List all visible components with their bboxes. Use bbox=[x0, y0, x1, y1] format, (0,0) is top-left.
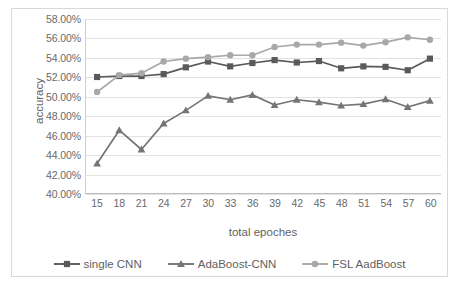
data-point-marker bbox=[249, 52, 255, 58]
chart-container: accuracy 40.00%42.00%44.00%46.00%48.00%5… bbox=[0, 0, 461, 294]
series-single-cnn bbox=[94, 56, 433, 81]
data-point-marker bbox=[382, 39, 388, 45]
x-axis-tick-label: 15 bbox=[91, 197, 103, 209]
legend-item-adaboost-cnn[interactable]: AdaBoost-CNN bbox=[168, 258, 277, 270]
data-point-marker bbox=[115, 126, 123, 133]
data-point-marker bbox=[272, 57, 278, 63]
y-axis-tick-label: 44.00% bbox=[46, 149, 81, 161]
x-axis-tick-label: 21 bbox=[136, 197, 148, 209]
data-point-marker bbox=[405, 34, 411, 40]
data-point-marker bbox=[161, 71, 167, 77]
y-axis-title: accuracy bbox=[33, 56, 45, 146]
y-axis-tick-label: 48.00% bbox=[46, 110, 81, 122]
y-axis-tick-label: 54.00% bbox=[46, 52, 81, 64]
legend-label: AdaBoost-CNN bbox=[198, 258, 277, 270]
data-point-marker bbox=[183, 64, 189, 70]
data-point-marker bbox=[360, 42, 366, 48]
x-axis-tick-label: 51 bbox=[358, 197, 370, 209]
data-point-marker bbox=[160, 58, 166, 64]
x-axis-tick-label: 18 bbox=[114, 197, 126, 209]
y-axis-tick-label: 50.00% bbox=[46, 91, 81, 103]
data-point-marker bbox=[382, 64, 388, 70]
y-axis-tick-label: 46.00% bbox=[46, 130, 81, 142]
y-axis-tick-label: 52.00% bbox=[46, 71, 81, 83]
x-axis-title: total epoches bbox=[85, 226, 441, 238]
x-axis-tick-label: 33 bbox=[225, 197, 237, 209]
series-line bbox=[97, 95, 430, 164]
legend-label: single CNN bbox=[84, 258, 142, 270]
series-plot bbox=[86, 19, 441, 193]
data-point-marker bbox=[116, 72, 122, 78]
y-axis-tick-label: 56.00% bbox=[46, 32, 81, 44]
legend-item-single-cnn[interactable]: single CNN bbox=[54, 258, 142, 270]
data-point-marker bbox=[204, 92, 212, 99]
data-point-marker bbox=[382, 95, 390, 102]
legend-marker-circle-icon bbox=[302, 258, 328, 270]
x-axis-tick-label: 48 bbox=[336, 197, 348, 209]
data-point-marker bbox=[426, 97, 434, 104]
data-point-marker bbox=[271, 44, 277, 50]
y-axis-tick-label: 58.00% bbox=[46, 13, 81, 25]
data-point-marker bbox=[182, 106, 190, 113]
legend-item-fsl-aadboost[interactable]: FSL AadBoost bbox=[302, 258, 405, 270]
legend-marker-triangle-icon bbox=[168, 258, 194, 270]
data-point-marker bbox=[405, 67, 411, 73]
x-axis-tick-label: 30 bbox=[203, 197, 215, 209]
data-point-marker bbox=[63, 261, 69, 267]
data-point-marker bbox=[160, 120, 168, 127]
data-point-marker bbox=[338, 65, 344, 71]
y-axis-tick-label: 42.00% bbox=[46, 169, 81, 181]
x-axis-tick-label: 27 bbox=[180, 197, 192, 209]
data-point-marker bbox=[138, 70, 144, 76]
data-point-marker bbox=[249, 91, 257, 98]
x-axis-tick-label: 36 bbox=[247, 197, 259, 209]
plot-area: 40.00%42.00%44.00%46.00%48.00%50.00%52.0… bbox=[85, 19, 441, 194]
x-axis-tick-label: 57 bbox=[403, 197, 415, 209]
data-point-marker bbox=[227, 52, 233, 58]
data-point-marker bbox=[338, 40, 344, 46]
data-point-marker bbox=[94, 74, 100, 80]
series-line bbox=[97, 59, 430, 77]
legend-label: FSL AadBoost bbox=[332, 258, 405, 270]
data-point-marker bbox=[427, 37, 433, 43]
x-axis-tick-label: 42 bbox=[292, 197, 304, 209]
data-point-marker bbox=[205, 54, 211, 60]
y-axis-tick-label: 40.00% bbox=[46, 188, 81, 200]
data-point-marker bbox=[312, 261, 318, 267]
gridline bbox=[86, 194, 441, 195]
data-point-marker bbox=[183, 55, 189, 61]
data-point-marker bbox=[249, 60, 255, 66]
data-point-marker bbox=[316, 41, 322, 47]
chart-legend: single CNNAdaBoost-CNNFSL AadBoost bbox=[11, 258, 448, 270]
x-axis-tick-label: 54 bbox=[381, 197, 393, 209]
x-axis-tick-label: 39 bbox=[269, 197, 281, 209]
series-line bbox=[97, 37, 430, 92]
legend-marker-square-icon bbox=[54, 258, 80, 270]
x-axis-tick-label: 60 bbox=[425, 197, 437, 209]
data-point-marker bbox=[427, 56, 433, 62]
x-axis-tick-label: 45 bbox=[314, 197, 326, 209]
data-point-marker bbox=[294, 41, 300, 47]
data-point-marker bbox=[316, 58, 322, 64]
data-point-marker bbox=[94, 89, 100, 95]
data-point-marker bbox=[360, 63, 366, 69]
series-fsl-aadboost bbox=[94, 34, 433, 95]
data-point-marker bbox=[227, 63, 233, 69]
x-axis-tick-label: 24 bbox=[158, 197, 170, 209]
series-adaboost-cnn bbox=[93, 91, 434, 167]
data-point-marker bbox=[294, 59, 300, 65]
